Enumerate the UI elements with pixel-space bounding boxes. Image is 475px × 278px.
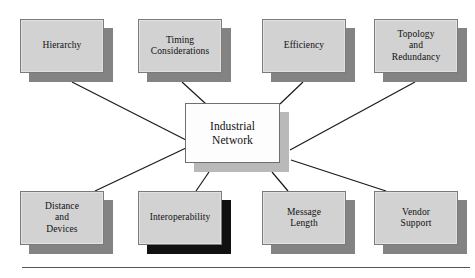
node-face-hierarchy: Hierarchy — [20, 19, 104, 73]
node-face-message-length: Message Length — [262, 191, 346, 245]
node-label-message-length: Message Length — [284, 207, 324, 230]
node-industrial-network: Industrial Network — [185, 103, 289, 172]
connector-interoperability-to-industrial-network — [196, 172, 209, 191]
node-timing-considerations: Timing Considerations — [138, 19, 231, 82]
industrial-network-diagram: HierarchyTiming ConsiderationsEfficiency… — [0, 0, 475, 278]
connector-topology-and-redundancy-to-industrial-network — [290, 82, 415, 150]
connector-distance-and-devices-to-industrial-network — [95, 148, 186, 191]
node-label-distance-and-devices: Distance and Devices — [42, 201, 82, 236]
node-label-topology-and-redundancy: Topology and Redundancy — [389, 29, 444, 64]
node-face-topology-and-redundancy: Topology and Redundancy — [374, 19, 458, 73]
connector-efficiency-to-industrial-network — [280, 82, 303, 104]
node-distance-and-devices: Distance and Devices — [20, 191, 113, 254]
node-label-industrial-network: Industrial Network — [207, 119, 258, 148]
connector-hierarchy-to-industrial-network — [72, 82, 186, 140]
node-hierarchy: Hierarchy — [20, 19, 113, 82]
node-face-vendor-support: Vendor Support — [374, 191, 458, 245]
node-face-interoperability: Interoperability — [138, 191, 222, 245]
node-label-interoperability: Interoperability — [147, 212, 214, 224]
node-label-efficiency: Efficiency — [281, 40, 327, 52]
node-message-length: Message Length — [262, 191, 355, 254]
node-face-industrial-network: Industrial Network — [185, 103, 280, 163]
node-topology-and-redundancy: Topology and Redundancy — [374, 19, 467, 82]
node-face-efficiency: Efficiency — [262, 19, 346, 73]
node-label-timing-considerations: Timing Considerations — [148, 35, 212, 58]
connector-vendor-support-to-industrial-network — [291, 160, 386, 191]
bottom-divider-rule — [22, 267, 470, 268]
node-interoperability: Interoperability — [138, 191, 231, 254]
node-label-vendor-support: Vendor Support — [398, 207, 435, 230]
node-efficiency: Efficiency — [262, 19, 355, 82]
node-face-timing-considerations: Timing Considerations — [138, 19, 222, 73]
connector-message-length-to-industrial-network — [272, 172, 288, 191]
node-face-distance-and-devices: Distance and Devices — [20, 191, 104, 245]
connector-timing-considerations-to-industrial-network — [182, 82, 206, 104]
node-vendor-support: Vendor Support — [374, 191, 467, 254]
node-label-hierarchy: Hierarchy — [40, 40, 85, 52]
